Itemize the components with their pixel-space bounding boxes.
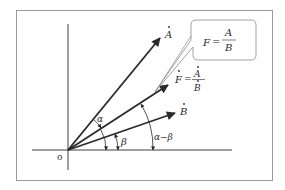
svg-text:=: = — [184, 74, 192, 84]
svg-text:A: A — [164, 29, 172, 40]
beta-arc — [115, 134, 118, 150]
alpha-minus-beta-arc — [141, 104, 153, 150]
svg-text:A: A — [193, 69, 201, 79]
svg-text:B: B — [193, 83, 201, 93]
callout-equals: = — [212, 36, 220, 47]
alpha-minus-beta-label: α−β — [154, 132, 173, 142]
origin-label: o — [57, 152, 62, 162]
alpha-label: α — [97, 114, 103, 124]
callout-denominator: B — [224, 42, 232, 53]
vector-b-label: B — [179, 103, 187, 117]
callout-numerator: A — [224, 27, 232, 38]
vector-a-label: A — [164, 26, 172, 40]
f-angle-arc — [101, 130, 106, 150]
svg-text:B: B — [179, 106, 187, 117]
beta-label: β — [120, 136, 127, 147]
phasor-diagram: o α β α−β A B F = A B F = A B — [0, 0, 285, 190]
vector-f-expression: F = A B — [174, 66, 205, 93]
callout-lhs: F — [202, 37, 211, 48]
svg-text:F: F — [174, 74, 183, 85]
